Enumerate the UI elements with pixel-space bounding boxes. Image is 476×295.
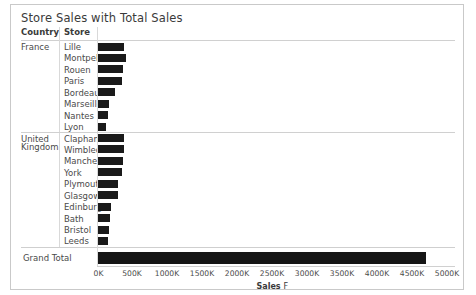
sales-bar[interactable] <box>97 180 118 188</box>
sales-bar[interactable] <box>97 168 122 176</box>
axis-tick-label: 4000K <box>365 269 389 278</box>
table-row[interactable]: York <box>11 167 465 178</box>
table-row[interactable]: Manchester <box>11 155 465 166</box>
column-header-country: Country <box>21 27 59 37</box>
store-label: Leeds <box>64 236 89 246</box>
store-label: Glasgow <box>64 191 100 201</box>
sales-bar[interactable] <box>97 191 118 199</box>
sales-bar[interactable] <box>97 214 110 222</box>
sort-descending-icon[interactable]: F <box>283 282 287 291</box>
table-row[interactable]: Wimbledon <box>11 144 465 155</box>
table-row[interactable]: Plymouth <box>11 178 465 189</box>
sales-bar[interactable] <box>97 65 123 73</box>
store-label: Nantes <box>64 111 94 121</box>
sales-bar[interactable] <box>97 54 126 62</box>
store-label: Lyon <box>64 122 84 132</box>
table-row[interactable]: Montpellier <box>11 52 465 63</box>
sales-bar[interactable] <box>97 157 123 165</box>
axis-tick-label: 5000K <box>435 269 459 278</box>
sales-bar[interactable] <box>97 100 109 108</box>
store-label: Bristol <box>64 225 91 235</box>
page-title: Store Sales with Total Sales <box>21 11 183 25</box>
table-row[interactable]: Edinburgh <box>11 201 465 212</box>
axis-title-label: Sales <box>257 282 284 291</box>
axis-tick-label: 2500K <box>260 269 284 278</box>
sales-bar[interactable] <box>97 88 115 96</box>
plot-left-edge <box>97 27 98 266</box>
sales-bar[interactable] <box>97 145 124 153</box>
axis-title-sales[interactable]: Sales F <box>257 282 288 291</box>
table-row[interactable]: Leeds <box>11 235 465 246</box>
grand-total-row: Grand Total <box>11 250 465 265</box>
column-separator <box>59 27 60 247</box>
axis-tick-label: 1500K <box>190 269 214 278</box>
table-row[interactable]: Paris <box>11 75 465 86</box>
group-divider <box>21 132 455 133</box>
table-row[interactable]: FranceLille <box>11 41 465 52</box>
store-label: Rouen <box>64 65 91 75</box>
column-header-store: Store <box>64 27 90 37</box>
sales-bar[interactable] <box>97 43 124 51</box>
axis-tick-label: 4500K <box>400 269 424 278</box>
sales-bar[interactable] <box>97 123 106 131</box>
table-row[interactable]: Bordeaux <box>11 87 465 98</box>
table-row[interactable]: Bath <box>11 213 465 224</box>
sales-bar[interactable] <box>97 203 111 211</box>
sales-bar[interactable] <box>97 226 109 234</box>
grand-total-divider <box>21 247 455 248</box>
sales-bar[interactable] <box>97 77 122 85</box>
sales-bar[interactable] <box>97 111 108 119</box>
viz-container: Store Sales with Total Sales Country Sto… <box>10 4 464 290</box>
table-header: Country Store <box>21 27 455 40</box>
country-label: France <box>21 42 49 52</box>
table-rows: FranceLilleMontpellierRouenParisBordeaux… <box>11 41 465 247</box>
axis-tick-label: 2000K <box>225 269 249 278</box>
store-label: York <box>64 168 82 178</box>
table-row[interactable]: Nantes <box>11 110 465 121</box>
table-row[interactable]: Bristol <box>11 224 465 235</box>
axis-tick-label: 1000K <box>155 269 179 278</box>
table-row[interactable]: Marseille <box>11 98 465 109</box>
store-label: Bath <box>64 214 84 224</box>
store-label: Lille <box>64 42 81 52</box>
axis-tick-label: 3000K <box>295 269 319 278</box>
axis-tick-label: 0K <box>94 269 104 278</box>
sales-bar[interactable] <box>97 237 108 245</box>
table-row[interactable]: Glasgow <box>11 190 465 201</box>
axis-line <box>97 266 455 267</box>
store-label: Paris <box>64 76 84 86</box>
grand-total-bar[interactable] <box>97 252 426 264</box>
grand-total-label: Grand Total <box>23 253 72 263</box>
sales-bar[interactable] <box>97 134 124 142</box>
axis-tick-label: 500K <box>122 269 141 278</box>
axis-tick-label: 3500K <box>330 269 354 278</box>
table-row[interactable]: Rouen <box>11 64 465 75</box>
table-row[interactable]: UnitedKingdomClapham <box>11 133 465 144</box>
